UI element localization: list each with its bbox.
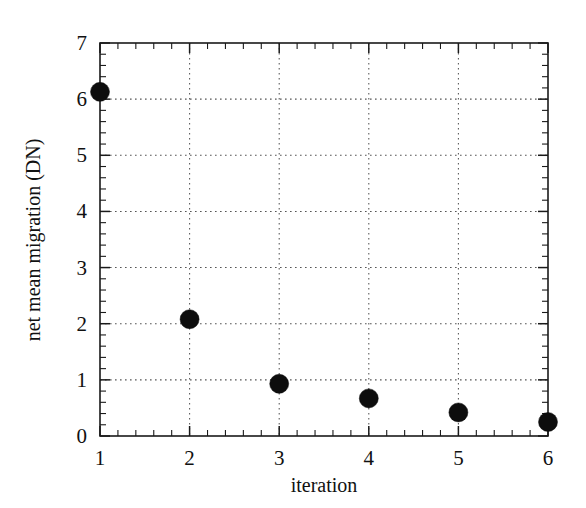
y-tick-label: 3 (77, 256, 88, 280)
y-axis-title: net mean migration (DN) (22, 139, 45, 342)
x-tick-label: 6 (543, 446, 554, 470)
x-tick-label: 3 (274, 446, 285, 470)
y-tick-label: 6 (77, 87, 88, 111)
x-axis-title: iteration (291, 474, 358, 496)
x-tick-label: 2 (184, 446, 195, 470)
x-tick-label: 1 (95, 446, 106, 470)
y-tick-label: 1 (77, 368, 88, 392)
y-tick-label: 7 (77, 31, 88, 55)
data-point (180, 310, 199, 329)
data-point (270, 374, 289, 393)
y-tick-label: 2 (77, 312, 88, 336)
data-point (449, 403, 468, 422)
y-tick-label: 4 (77, 199, 88, 223)
data-point (359, 389, 378, 408)
x-tick-label: 5 (453, 446, 464, 470)
figure-background (0, 0, 586, 508)
x-tick-label: 4 (364, 446, 375, 470)
chart-figure: 123456 01234567 iteration net mean migra… (0, 0, 586, 508)
data-point (539, 412, 558, 431)
y-tick-label: 0 (77, 424, 88, 448)
y-tick-label: 5 (77, 143, 88, 167)
data-point (91, 82, 110, 101)
scatter-plot-svg: 123456 01234567 iteration net mean migra… (0, 0, 586, 508)
